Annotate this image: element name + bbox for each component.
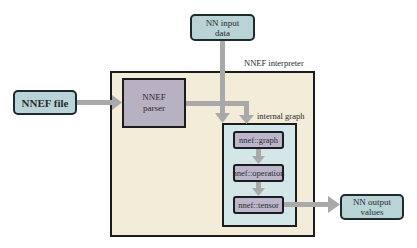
nnef-file-label: NNEF file [22, 98, 69, 108]
node-tensor-label: nnef::tensor [238, 200, 279, 210]
node-operation-label: nnef::operation [233, 168, 285, 178]
nn-output-line1: NN output [353, 197, 391, 207]
node-tensor: nnef::tensor [233, 196, 284, 214]
nn-output-line2: values [353, 207, 391, 217]
node-graph-label: nnef::graph [239, 135, 278, 145]
node-operation: nnef::operation [233, 164, 284, 182]
nn-input-box: NN input data [190, 14, 255, 41]
nnef-file-box: NNEF file [13, 90, 77, 115]
node-graph: nnef::graph [233, 131, 284, 149]
nn-input-line1: NN input [206, 18, 240, 28]
nn-output-box: NN output values [340, 194, 404, 220]
nn-input-line2: data [206, 28, 240, 38]
